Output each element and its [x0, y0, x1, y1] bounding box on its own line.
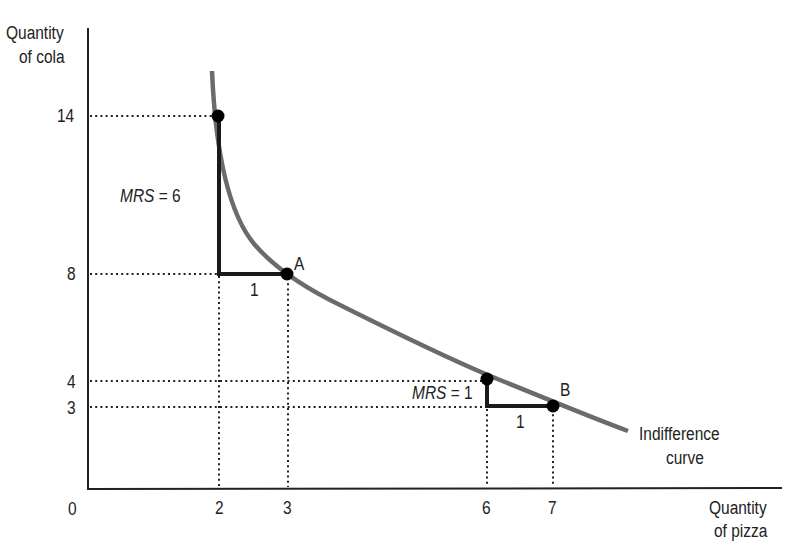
mrs-annotation-upper: MRS = 6 [120, 185, 181, 207]
run-label-lower: 1 [516, 411, 525, 433]
y-tick-4: 4 [67, 371, 76, 393]
x-axis-title-line2: of pizza [714, 520, 767, 542]
origin-label: 0 [68, 498, 77, 520]
x-axis-title-line1: Quantity [709, 497, 767, 519]
y-tick-14: 14 [57, 105, 74, 127]
point-a [281, 268, 294, 281]
x-axis [87, 488, 782, 489]
y-tick-3: 3 [67, 397, 76, 419]
mrs-lower-italic: MRS [412, 383, 446, 403]
data-points [212, 110, 560, 413]
y-axis-title-line2: of cola [19, 46, 65, 68]
y-axis-title-line1: Quantity [6, 22, 64, 44]
run-label-upper: 1 [250, 279, 259, 301]
guide-lines [90, 116, 553, 487]
curve-label-line2: curve [666, 447, 704, 469]
point-b-label: B [560, 379, 570, 401]
x-tick-3: 3 [283, 497, 292, 519]
indifference-curve-chart [0, 0, 792, 555]
y-tick-8: 8 [67, 263, 76, 285]
x-tick-2: 2 [215, 497, 224, 519]
x-tick-6: 6 [482, 497, 491, 519]
point-b [547, 400, 560, 413]
axes [87, 28, 782, 490]
mrs-upper-italic: MRS [120, 186, 154, 206]
point-6-4 [481, 373, 494, 386]
curve-label-line1: Indifference [639, 423, 720, 445]
mrs-lower-value: = 1 [446, 383, 472, 403]
mrs-upper-value: = 6 [154, 186, 180, 206]
indifference-curve [212, 71, 628, 431]
point-a-label: A [294, 253, 304, 275]
mrs-annotation-lower: MRS = 1 [412, 382, 473, 404]
point-2-14 [212, 110, 225, 123]
x-tick-7: 7 [548, 497, 557, 519]
mrs-step-lower [487, 379, 553, 406]
